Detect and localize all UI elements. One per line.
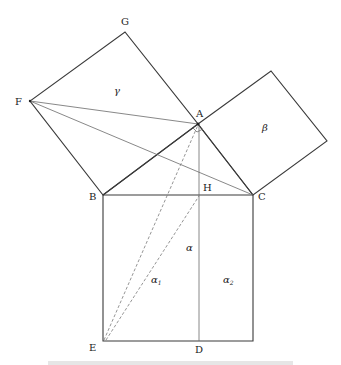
region-alpha1-label: α1 bbox=[151, 274, 162, 286]
region-alpha-label: α bbox=[186, 242, 193, 253]
label-a: A bbox=[195, 108, 204, 119]
square-beta bbox=[198, 71, 327, 195]
label-b: B bbox=[89, 191, 96, 202]
label-e: E bbox=[89, 342, 96, 353]
point-f-dot bbox=[29, 100, 31, 102]
side-ab bbox=[103, 124, 198, 195]
dashed-eh bbox=[106, 196, 199, 340]
caption-cutoff bbox=[48, 361, 293, 365]
pythagorean-diagram: G F A B C H E D γ β α α1 α2 bbox=[0, 0, 341, 365]
point-a-dot bbox=[197, 123, 200, 126]
label-d: D bbox=[195, 344, 203, 355]
region-beta-label: β bbox=[261, 122, 268, 133]
label-h: H bbox=[203, 182, 212, 193]
line-fc bbox=[30, 101, 253, 195]
region-gamma-label: γ bbox=[114, 85, 120, 96]
diagram-canvas: G F A B C H E D γ β α α1 α2 bbox=[0, 0, 341, 365]
label-c: C bbox=[258, 191, 266, 202]
region-alpha2-label: α2 bbox=[223, 274, 234, 286]
label-f: F bbox=[15, 96, 22, 107]
dashed-ea bbox=[104, 125, 198, 340]
square-alpha bbox=[103, 195, 253, 341]
label-g: G bbox=[121, 16, 129, 27]
square-gamma bbox=[30, 32, 198, 195]
line-fa bbox=[30, 101, 198, 124]
